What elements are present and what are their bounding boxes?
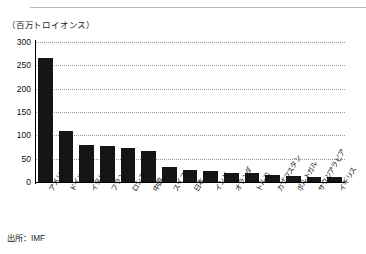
y-axis-tick-label: 300 [17,37,31,47]
source-note: 出所：IMF [7,231,45,243]
y-axis-tick-label: 0 [26,177,31,187]
y-axis-tick-label: 50 [22,154,31,164]
gold-reserves-bar-chart-figure: （百万トロイオンス） 050100150200250300 アメリカドイツイタリ… [0,0,366,254]
y-axis-tick-label: 250 [17,60,31,70]
y-axis-tick-label: 200 [17,84,31,94]
bar [38,58,53,182]
x-axis-label-group: アメリカドイツイタリアフランスロシア中国スイス日本インドオランダトルコカザフスタ… [35,188,345,232]
y-axis-tick-label: 100 [17,130,31,140]
y-axis-tick-label: 150 [17,107,31,117]
y-axis-unit-label: （百万トロイオンス） [7,18,95,30]
top-divider [30,7,366,8]
